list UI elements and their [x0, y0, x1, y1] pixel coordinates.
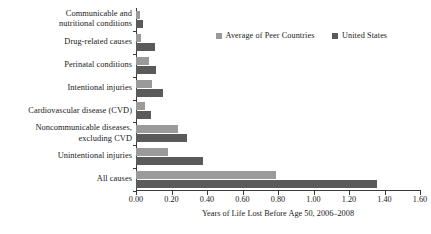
- category-label-line: Noncommunicable diseases,: [0, 123, 132, 134]
- bar-average-of-peer-countries: [136, 57, 149, 65]
- category-label-line: excluding CVD: [0, 134, 132, 145]
- bar-average-of-peer-countries: [136, 34, 141, 42]
- y-axis-tick: [133, 31, 136, 32]
- x-axis-tick: [349, 191, 350, 195]
- category-label-line: All causes: [0, 174, 132, 185]
- bar-group: [136, 168, 420, 191]
- category-label: Communicable andnutritional conditions: [0, 9, 132, 30]
- x-axis-tick-label: 0.00: [129, 195, 143, 205]
- category-label: Unintentional injuries: [0, 151, 132, 162]
- category-label: Intentional injuries: [0, 83, 132, 94]
- category-label-line: Cardiovascular disease (CVD): [0, 106, 132, 117]
- x-axis-tick-label: 1.20: [342, 195, 356, 205]
- category-label-line: Unintentional injuries: [0, 151, 132, 162]
- category-label: All causes: [0, 174, 132, 185]
- chart-container: Average of Peer Countries United States …: [0, 0, 431, 234]
- x-axis-tick: [172, 191, 173, 195]
- x-axis-tick-label: 1.40: [377, 195, 391, 205]
- bar-united-states: [136, 43, 155, 51]
- category-label-line: Intentional injuries: [0, 83, 132, 94]
- y-axis-tick: [133, 122, 136, 123]
- bar-united-states: [136, 20, 143, 28]
- category-label: Noncommunicable diseases,excluding CVD: [0, 123, 132, 144]
- x-axis-tick: [385, 191, 386, 195]
- bar-average-of-peer-countries: [136, 125, 178, 133]
- x-axis-tick-label: 0.80: [271, 195, 285, 205]
- bar-group: [136, 77, 420, 100]
- y-axis-tick: [133, 168, 136, 169]
- bar-group: [136, 31, 420, 54]
- x-axis-tick-labels: 0.000.200.400.600.801.001.201.401.60: [136, 195, 420, 207]
- y-axis-tick: [133, 100, 136, 101]
- x-axis-tick: [136, 191, 137, 195]
- y-axis-tick: [133, 77, 136, 78]
- x-axis-tick: [278, 191, 279, 195]
- category-axis-labels: Communicable andnutritional conditionsDr…: [0, 8, 132, 191]
- bar-united-states: [136, 157, 203, 165]
- bar-rows: [136, 8, 420, 191]
- category-label-line: Drug-related causes: [0, 37, 132, 48]
- bar-united-states: [136, 134, 187, 142]
- category-label-line: nutritional conditions: [0, 19, 132, 30]
- category-label: Cardiovascular disease (CVD): [0, 106, 132, 117]
- bar-average-of-peer-countries: [136, 148, 168, 156]
- x-axis-tick-label: 0.60: [235, 195, 249, 205]
- x-axis-title: Years of Life Lost Before Age 50, 2006–2…: [136, 208, 420, 219]
- bar-average-of-peer-countries: [136, 11, 140, 19]
- bar-average-of-peer-countries: [136, 171, 276, 179]
- x-axis-tick-label: 1.60: [413, 195, 427, 205]
- x-axis-tick: [207, 191, 208, 195]
- bar-united-states: [136, 66, 156, 74]
- x-axis-tick: [243, 191, 244, 195]
- x-axis-tick: [420, 191, 421, 195]
- x-axis-tick-label: 0.20: [164, 195, 178, 205]
- category-label-line: Perinatal conditions: [0, 60, 132, 71]
- bar-group: [136, 54, 420, 77]
- y-axis-tick: [133, 145, 136, 146]
- bar-united-states: [136, 111, 151, 119]
- bar-average-of-peer-countries: [136, 80, 152, 88]
- category-label-line: Communicable and: [0, 9, 132, 20]
- bar-group: [136, 122, 420, 145]
- plot-area: [136, 8, 420, 191]
- bar-average-of-peer-countries: [136, 102, 145, 110]
- y-axis-tick: [133, 54, 136, 55]
- x-axis-tick: [314, 191, 315, 195]
- bar-group: [136, 145, 420, 168]
- bar-group: [136, 100, 420, 123]
- bar-united-states: [136, 89, 163, 97]
- x-axis-tick-label: 1.00: [306, 195, 320, 205]
- x-axis-tick-label: 0.40: [200, 195, 214, 205]
- category-label: Perinatal conditions: [0, 60, 132, 71]
- bar-group: [136, 8, 420, 31]
- category-label: Drug-related causes: [0, 37, 132, 48]
- bar-united-states: [136, 180, 377, 188]
